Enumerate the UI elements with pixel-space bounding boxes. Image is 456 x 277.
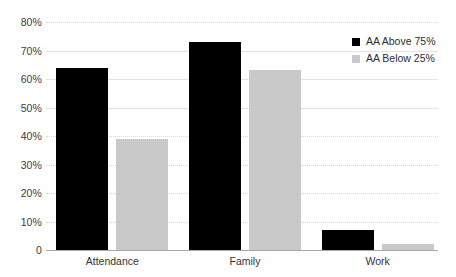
y-axis-tick-label: 20% bbox=[0, 188, 42, 199]
x-axis-category-label: Work bbox=[318, 256, 438, 267]
y-axis-tick-label: 40% bbox=[0, 131, 42, 142]
bar bbox=[249, 70, 301, 250]
bar bbox=[116, 139, 168, 250]
bar bbox=[322, 230, 374, 250]
y-axis-tick-label: 50% bbox=[0, 103, 42, 114]
y-axis-tick-label: 30% bbox=[0, 160, 42, 171]
x-axis-category-label: Family bbox=[185, 256, 305, 267]
bar-chart: 010%20%30%40%50%60%70%80% AttendanceFami… bbox=[0, 0, 456, 277]
bar-group bbox=[189, 22, 301, 250]
chart-legend: AA Above 75%AA Below 25% bbox=[352, 36, 435, 64]
y-axis-tick-label: 70% bbox=[0, 46, 42, 57]
legend-label: AA Below 25% bbox=[366, 53, 435, 64]
legend-item: AA Below 25% bbox=[352, 53, 435, 64]
y-axis-tick-label: 10% bbox=[0, 217, 42, 228]
bar bbox=[189, 42, 241, 250]
y-axis-tick-label: 60% bbox=[0, 74, 42, 85]
axis-baseline bbox=[46, 250, 438, 251]
bar-group bbox=[56, 22, 168, 250]
legend-label: AA Above 75% bbox=[366, 36, 435, 47]
y-axis-tick-label: 0 bbox=[0, 245, 42, 256]
legend-item: AA Above 75% bbox=[352, 36, 435, 47]
legend-swatch bbox=[352, 38, 360, 46]
y-axis-tick-label: 80% bbox=[0, 17, 42, 28]
x-axis-category-label: Attendance bbox=[52, 256, 172, 267]
bar bbox=[56, 68, 108, 250]
legend-swatch bbox=[352, 55, 360, 63]
